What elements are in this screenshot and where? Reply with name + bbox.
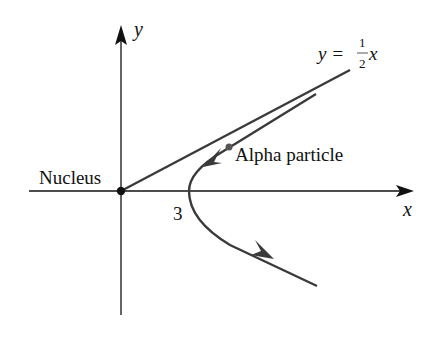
x-axis-label: x bbox=[402, 198, 412, 220]
nucleus-dot bbox=[117, 187, 125, 195]
asymptote-line bbox=[121, 70, 350, 191]
asymptote-numerator: 1 bbox=[359, 35, 366, 50]
alpha-particle-dot bbox=[226, 144, 233, 151]
asymptote-equation: y = 1 2 x bbox=[316, 35, 378, 71]
asymptote-lhs: y = bbox=[316, 43, 344, 64]
alpha-particle-label: Alpha particle bbox=[235, 144, 343, 165]
asymptote-denominator: 2 bbox=[359, 56, 366, 71]
diagram-canvas: Nucleus Alpha particle 3 x y y = 1 2 x bbox=[0, 0, 439, 340]
nucleus-label: Nucleus bbox=[39, 167, 101, 188]
asymptote-variable: x bbox=[368, 43, 378, 64]
incoming-arrow-icon bbox=[203, 148, 222, 167]
hyperbola-path bbox=[189, 94, 317, 286]
y-axis-label: y bbox=[132, 18, 143, 41]
vertex-tick-label: 3 bbox=[173, 203, 183, 224]
